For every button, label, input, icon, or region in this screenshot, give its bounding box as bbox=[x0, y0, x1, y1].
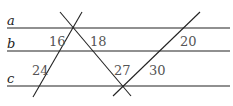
transversal-right bbox=[113, 12, 200, 96]
line-label-c: c bbox=[7, 72, 14, 85]
transversal-left bbox=[33, 12, 82, 97]
segment-label-30: 30 bbox=[149, 64, 166, 77]
line-label-a: a bbox=[7, 14, 15, 27]
segment-label-16: 16 bbox=[49, 35, 66, 48]
segment-label-27: 27 bbox=[114, 64, 131, 77]
segment-label-24: 24 bbox=[32, 64, 49, 77]
segment-label-20: 20 bbox=[180, 35, 197, 48]
diagram-canvas bbox=[0, 0, 233, 106]
line-label-b: b bbox=[7, 37, 15, 50]
segment-label-18: 18 bbox=[90, 35, 107, 48]
transversal-middle bbox=[60, 12, 131, 96]
